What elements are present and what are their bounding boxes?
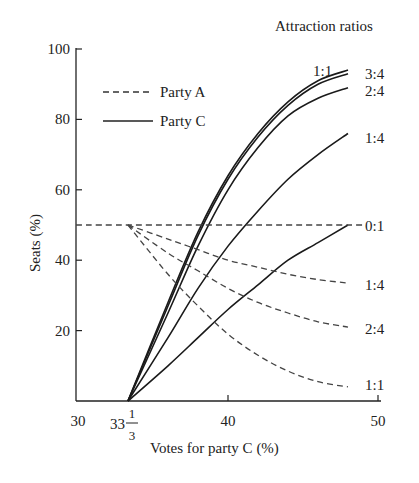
y-tick-label: 80 [55,111,70,127]
ratio-label: 2:4 [365,321,385,337]
y-axis-label: Seats (%) [27,214,44,272]
y-tick-label: 40 [55,252,70,268]
x-ticks: 3033134050 [71,395,386,443]
legend-party-a: Party A [160,84,206,100]
svg-text:1: 1 [129,406,136,421]
x-tick-label-fraction: 3313 [110,406,138,443]
series-line-a-2-4 [128,225,348,327]
series-line-a-1-1 [128,225,348,387]
ratio-label: 1:1 [313,63,332,79]
ratio-label: 3:4 [365,66,385,82]
y-ticks: 20406080100 [48,41,83,339]
series-line-c-0-1 [128,225,348,401]
y-tick-label: 100 [48,41,71,57]
y-tick-label: 20 [55,323,70,339]
attraction-ratios-header: Attraction ratios [275,18,373,34]
x-tick-label: 40 [221,413,236,429]
svg-text:33: 33 [110,416,125,432]
chart-canvas: 20406080100 3033134050 Seats (%) Votes f… [0,0,419,483]
y-tick-label: 60 [55,182,70,198]
x-tick-label: 50 [371,413,386,429]
ratio-label: 2:4 [365,83,385,99]
x-tick-label: 30 [71,413,86,429]
legend-party-c: Party C [160,113,205,129]
ratio-label: 1:1 [365,377,384,393]
ratio-label: 0:1 [365,218,384,234]
svg-text:3: 3 [129,428,136,443]
series-lines [76,70,363,401]
ratio-label: 1:4 [365,130,385,146]
ratio-label: 1:4 [365,277,385,293]
end-labels: 1:13:42:41:40:11:42:41:1 [313,63,385,393]
x-axis-label: Votes for party C (%) [150,440,279,457]
legend: Party A Party C [103,84,206,129]
